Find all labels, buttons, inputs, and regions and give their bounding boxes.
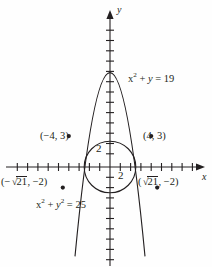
x-axis-label: x	[202, 172, 206, 182]
point-label-4-3: (4, 3)	[143, 131, 166, 142]
y-axis-label: y	[117, 5, 121, 15]
y-axis	[106, 10, 114, 266]
point-label-neg4-3: (−4, 3)	[40, 131, 69, 142]
point-label-sqrt21-neg2: (√21, −2)	[138, 176, 178, 188]
circle-equation-label: x2 + y2 = 25	[36, 198, 86, 210]
y-axis-tick-label-2: 2	[96, 143, 102, 154]
graph-figure: y x 2 2 x2 + y = 19 x2 + y2 = 25 (−4, 3)…	[0, 0, 212, 267]
x-axis-tick-label-2: 2	[118, 170, 124, 181]
coordinate-plot	[0, 0, 212, 267]
x-axis	[6, 163, 205, 171]
point-label-negsqrt21-neg2: (−√21, −2)	[1, 176, 47, 188]
parabola-equation-label: x2 + y = 19	[128, 72, 174, 84]
